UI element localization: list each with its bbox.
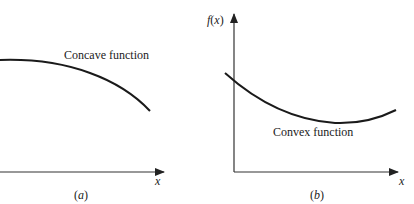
caption-a: (a) — [74, 188, 88, 202]
panel-b: Convex function f(x) x (b) — [207, 13, 405, 202]
convex-curve — [225, 73, 396, 123]
concave-function-label: Concave function — [64, 48, 149, 62]
y-axis-label-b: f(x) — [207, 13, 224, 27]
x-axis-label-a: x — [154, 174, 161, 188]
figure: Concave function x (a) Convex function f… — [0, 0, 414, 204]
x-axis-label-b: x — [398, 174, 405, 188]
convex-function-label: Convex function — [273, 125, 353, 139]
panel-a: Concave function x (a) — [0, 48, 164, 202]
concave-curve — [0, 60, 150, 111]
caption-b: (b) — [310, 188, 324, 202]
